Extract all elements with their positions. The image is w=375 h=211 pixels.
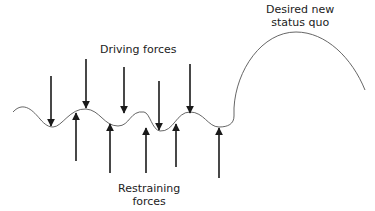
restraining-forces-arrows	[76, 113, 219, 178]
restraining-forces-label: Restraining forces	[118, 183, 180, 208]
desired-status-quo-label: Desired new status quo	[266, 4, 334, 29]
restraining-forces-line1: Restraining	[118, 183, 180, 196]
status-quo-curve	[13, 32, 365, 131]
force-field-diagram	[0, 0, 375, 211]
restraining-forces-line2: forces	[118, 196, 180, 209]
driving-forces-text: Driving forces	[100, 43, 177, 56]
driving-forces-label: Driving forces	[100, 44, 177, 57]
desired-status-quo-line1: Desired new	[266, 4, 334, 17]
driving-forces-arrows	[51, 59, 190, 130]
desired-status-quo-line2: status quo	[266, 17, 334, 30]
